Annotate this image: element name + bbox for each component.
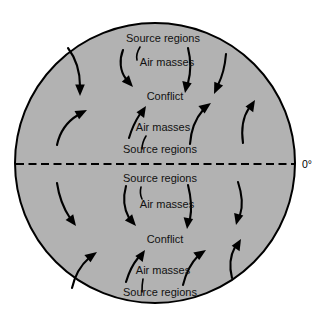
south-source-regions-polar-label: Source regions: [123, 286, 197, 298]
globe-diagram: Source regions Air masses Conflict Air m…: [0, 0, 330, 320]
south-conflict-label: Conflict: [147, 233, 184, 245]
equator-degree-label: 0°: [302, 158, 312, 170]
north-source-regions-equatorial-label: Source regions: [123, 143, 197, 155]
north-air-masses-equatorial-label: Air masses: [136, 121, 191, 133]
south-air-masses-polar-label: Air masses: [136, 264, 191, 276]
south-source-regions-equatorial-label: Source regions: [123, 172, 197, 184]
north-source-regions-polar-label: Source regions: [126, 32, 200, 44]
south-air-masses-equatorial-label: Air masses: [140, 198, 195, 210]
north-air-masses-polar-label: Air masses: [140, 56, 195, 68]
diagram-canvas: Source regions Air masses Conflict Air m…: [0, 0, 330, 320]
north-conflict-label: Conflict: [147, 90, 184, 102]
